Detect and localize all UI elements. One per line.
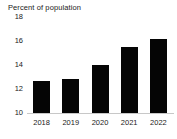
y-axis-tick-label: 14: [15, 61, 23, 69]
bar: [121, 47, 138, 113]
y-axis-tick-label: 16: [15, 37, 23, 45]
y-axis-tick-label: 18: [15, 13, 23, 21]
y-axis-tick-label: 12: [15, 85, 23, 93]
y-axis-tick-label: 10: [15, 109, 23, 117]
bar: [62, 79, 79, 113]
bar-chart: Percent of population 1012141618 2018201…: [0, 0, 177, 139]
x-axis-line: [27, 113, 174, 114]
bar: [33, 81, 50, 113]
bar: [92, 65, 109, 113]
chart-title: Percent of population: [8, 3, 81, 12]
bar: [150, 39, 167, 113]
x-axis-tick-label: 2022: [141, 118, 175, 127]
plot-area: 1012141618: [27, 17, 173, 113]
